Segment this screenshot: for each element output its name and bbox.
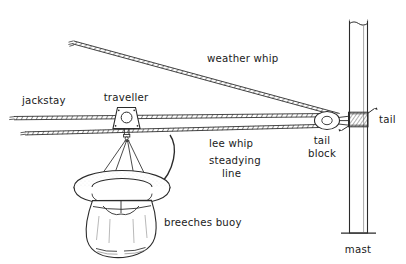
label-tail-block-2: block xyxy=(308,148,336,159)
label-tail: tail xyxy=(379,114,396,125)
tail-block-sheave-icon xyxy=(322,116,332,124)
weather-whip-rope xyxy=(68,41,339,117)
label-traveller: traveller xyxy=(104,92,149,103)
label-breeches-buoy: breeches buoy xyxy=(164,217,242,228)
label-jackstay: jackstay xyxy=(21,95,66,106)
jackstay-rope xyxy=(9,113,330,120)
breeches-buoy-diagram: jackstay traveller weather whip lee whip… xyxy=(0,0,406,264)
label-mast: mast xyxy=(345,244,371,255)
traveller-block xyxy=(113,108,140,140)
traveller-sheave-icon xyxy=(121,112,132,123)
lee-whip-rope xyxy=(20,124,333,135)
label-steadying-line-2: line xyxy=(222,168,241,179)
breeches-buoy xyxy=(74,171,170,258)
tail-block xyxy=(315,112,350,130)
label-steadying-line-1: steadying xyxy=(209,155,261,166)
diagram-canvas: jackstay traveller weather whip lee whip… xyxy=(0,0,406,264)
label-tail-block-1: tail xyxy=(314,135,331,146)
label-weather-whip: weather whip xyxy=(207,53,278,64)
label-lee-whip: lee whip xyxy=(209,138,253,149)
